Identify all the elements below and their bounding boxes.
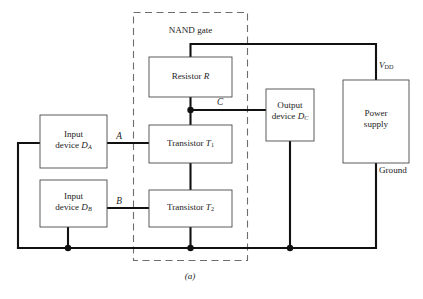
supply-rail-subscript: DD [385,63,394,70]
transistor-t2-label-text: Transistor [167,202,204,212]
nand-gate-label: NAND gate [134,25,248,36]
resistor-label-text: Resistor [172,71,202,81]
input-device-a-symbol: D [81,140,88,150]
junction-dot-t2-ground [187,245,193,251]
transistor-t2-subscript: 2 [211,205,214,212]
signal-label-a: A [112,131,126,142]
transistor-t1-label-text: Transistor [167,138,204,148]
supply-rail-label: VDD [379,60,419,71]
junction-dot-output-ground [287,245,293,251]
input-device-b-line2: device [55,202,79,212]
output-device-c-line1: Output [277,100,302,110]
input-device-b-line1: Input [64,191,83,201]
output-device-c-subscript: C [304,114,308,121]
input-device-a-line2: device [55,140,79,150]
output-device-c-line2: device [272,111,296,121]
figure-caption: (a) [160,271,220,282]
junction-dot-input-b-ground [65,245,71,251]
signal-label-c: C [213,97,227,108]
input-device-b-symbol: D [81,202,88,212]
power-supply-label: Power supply [343,108,409,129]
input-device-a-label: Input device DA [40,129,107,150]
input-device-a-line1: Input [64,129,83,139]
junction-dot-node-c [187,107,193,113]
ground-rail-label: Ground [379,165,423,176]
nand-gate-circuit-figure: NAND gate Resistor R Transistor T1 Trans… [0,0,423,299]
power-supply-line1: Power [364,108,387,118]
input-device-b-subscript: B [88,205,92,212]
signal-label-b: B [112,196,126,207]
input-device-b-label: Input device DB [40,191,107,212]
power-supply-line2: supply [343,119,409,130]
resistor-symbol: R [204,71,210,81]
transistor-t2-label: Transistor T2 [149,202,232,213]
output-device-c-label: Output device DC [264,100,316,121]
transistor-t1-subscript: 1 [211,141,214,148]
input-device-a-subscript: A [88,143,92,150]
transistor-t1-label: Transistor T1 [149,138,232,149]
resistor-label: Resistor R [149,71,232,82]
